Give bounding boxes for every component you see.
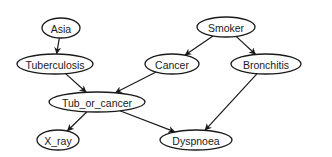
node-bronchitis[interactable]: Bronchitis — [231, 54, 301, 74]
bayesian-network-diagram: AsiaTuberculosisSmokerCancerBronchitisTu… — [0, 0, 332, 157]
edges-layer — [57, 36, 257, 132]
node-asia[interactable]: Asia — [42, 18, 80, 38]
edge-bronchitis-to-dyspnoea — [205, 74, 257, 131]
node-tuberculosis[interactable]: Tuberculosis — [17, 54, 93, 74]
node-label: Bronchitis — [243, 59, 289, 71]
node-label: Tuberculosis — [25, 59, 84, 71]
edge-smoker-to-cancer — [185, 36, 213, 55]
edge-tub-or-cancer-to-x-ray — [67, 112, 87, 131]
node-dyspnoea[interactable]: Dyspnoea — [160, 130, 232, 150]
node-label: X_ray — [44, 135, 72, 147]
edge-cancer-to-tub-or-cancer — [115, 72, 156, 93]
node-tub-or-cancer[interactable]: Tub_or_cancer — [49, 92, 145, 112]
node-label: Smoker — [208, 22, 245, 34]
node-x-ray[interactable]: X_ray — [37, 130, 79, 150]
node-label: Tub_or_cancer — [62, 97, 133, 109]
edge-asia-to-tuberculosis — [57, 38, 60, 54]
node-smoker[interactable]: Smoker — [197, 17, 255, 37]
node-cancer[interactable]: Cancer — [145, 54, 199, 74]
node-label: Asia — [51, 23, 72, 35]
nodes-layer: AsiaTuberculosisSmokerCancerBronchitisTu… — [17, 17, 301, 150]
edge-smoker-to-bronchitis — [236, 36, 256, 54]
node-label: Cancer — [155, 59, 189, 71]
edge-tuberculosis-to-tub-or-cancer — [66, 74, 87, 93]
node-label: Dyspnoea — [172, 135, 219, 147]
edge-tub-or-cancer-to-dyspnoea — [120, 111, 175, 132]
